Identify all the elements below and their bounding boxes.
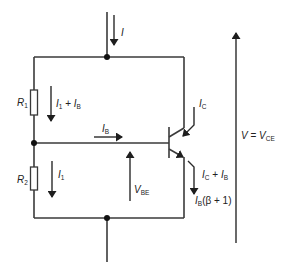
- label-base-current: IB: [102, 123, 109, 135]
- npn-transistor: [169, 127, 184, 158]
- label-r2: R2: [17, 174, 28, 186]
- label-supply-current: I: [121, 27, 124, 38]
- junction-top: [104, 54, 110, 60]
- junction-base: [31, 140, 37, 146]
- junction-bottom: [104, 215, 110, 221]
- label-collector-current: IC: [199, 98, 207, 110]
- label-vce: V = VCE: [241, 130, 275, 142]
- resistor-r2: [31, 167, 38, 190]
- label-emitter-beta: IB(β + 1): [195, 195, 232, 207]
- label-vbe: VBE: [134, 184, 150, 196]
- label-emitter-sum: IC + IB: [202, 169, 228, 181]
- circuit-diagram: I R1 R2 I1 + IB I1 IB VBE IC IC + IB IB(…: [0, 0, 285, 274]
- label-r1-current: I1 + IB: [56, 98, 81, 110]
- label-r2-current: I1: [58, 169, 65, 181]
- label-r1: R1: [17, 97, 28, 109]
- resistor-r1: [31, 90, 38, 115]
- arrow-emitter-current: [188, 161, 194, 194]
